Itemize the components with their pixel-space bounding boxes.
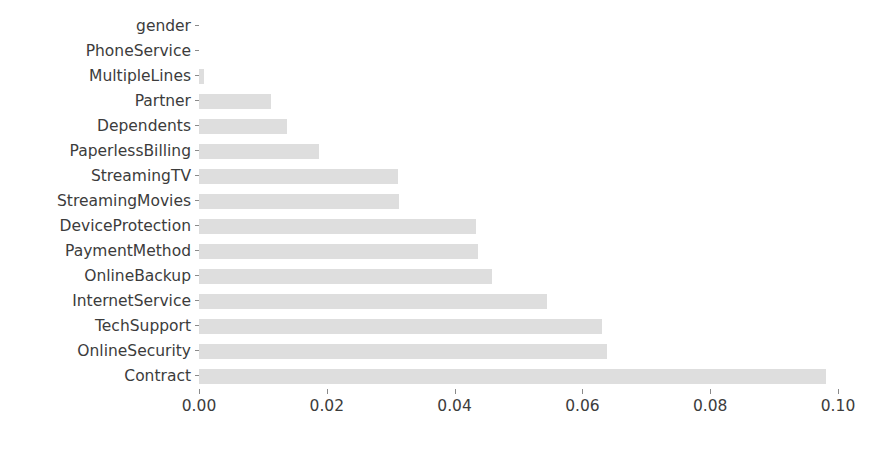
bar-row: [199, 139, 838, 164]
bar: [199, 269, 492, 284]
x-tick-mark: [838, 389, 839, 394]
y-tick-mark: [195, 50, 199, 51]
bar: [199, 244, 478, 259]
plot-area: [199, 14, 838, 389]
x-axis-tick-label: 0.10: [821, 397, 856, 415]
x-tick-mark: [327, 389, 328, 394]
y-axis-label: Partner: [135, 89, 191, 114]
bar: [199, 369, 826, 384]
y-axis-label: PaymentMethod: [65, 239, 191, 264]
y-axis-label: InternetService: [72, 289, 191, 314]
bar: [199, 69, 204, 84]
y-axis-label: Contract: [124, 364, 191, 389]
x-tick-mark: [455, 389, 456, 394]
y-axis-label: gender: [136, 14, 191, 39]
y-axis-label: PaperlessBilling: [70, 139, 191, 164]
y-axis-label: StreamingMovies: [57, 189, 191, 214]
bar-row: [199, 239, 838, 264]
y-axis-label: StreamingTV: [91, 164, 191, 189]
bar-row: [199, 339, 838, 364]
bar-chart-figure: genderPhoneServiceMultipleLinesPartnerDe…: [0, 0, 889, 454]
y-axis-label: MultipleLines: [89, 64, 191, 89]
y-axis-label: OnlineSecurity: [77, 339, 191, 364]
bar-row: [199, 114, 838, 139]
bar: [199, 94, 271, 109]
bar: [199, 294, 547, 309]
bar-row: [199, 289, 838, 314]
y-axis-label: DeviceProtection: [60, 214, 191, 239]
bar: [199, 219, 476, 234]
y-axis-label: TechSupport: [95, 314, 191, 339]
x-tick-mark: [582, 389, 583, 394]
x-axis: 0.000.020.040.060.080.10: [199, 389, 838, 429]
x-axis-tick-label: 0.02: [310, 397, 345, 415]
bar: [199, 169, 398, 184]
y-axis-labels: genderPhoneServiceMultipleLinesPartnerDe…: [0, 14, 191, 389]
bar-row: [199, 14, 838, 39]
bar: [199, 144, 319, 159]
x-axis-tick-label: 0.06: [565, 397, 600, 415]
bar-row: [199, 189, 838, 214]
x-axis-tick-label: 0.08: [693, 397, 728, 415]
bar: [199, 344, 607, 359]
x-axis-tick-label: 0.00: [182, 397, 217, 415]
bar-row: [199, 89, 838, 114]
bar: [199, 119, 287, 134]
y-axis-label: PhoneService: [86, 39, 191, 64]
y-axis-label: Dependents: [97, 114, 191, 139]
bar-row: [199, 64, 838, 89]
y-axis-label: OnlineBackup: [84, 264, 191, 289]
y-tick-mark: [195, 25, 199, 26]
x-axis-tick-label: 0.04: [437, 397, 472, 415]
bar-row: [199, 214, 838, 239]
bar-row: [199, 364, 838, 389]
bar-row: [199, 314, 838, 339]
bar: [199, 194, 399, 209]
bar-row: [199, 39, 838, 64]
x-tick-mark: [710, 389, 711, 394]
x-tick-mark: [199, 389, 200, 394]
bar-row: [199, 164, 838, 189]
bar: [199, 319, 602, 334]
bar-row: [199, 264, 838, 289]
